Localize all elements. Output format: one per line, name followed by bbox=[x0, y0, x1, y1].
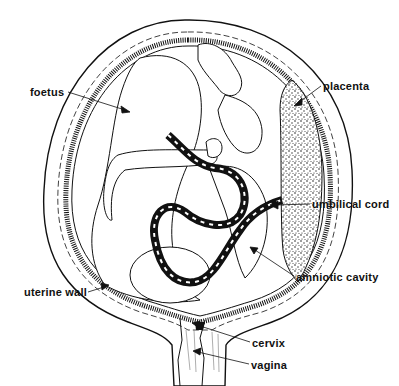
label-uterine-wall: uterine wall bbox=[24, 286, 87, 298]
label-cervix: cervix bbox=[252, 337, 285, 349]
label-foetus: foetus bbox=[30, 86, 64, 98]
label-vagina: vagina bbox=[251, 359, 287, 371]
uterus-illustration bbox=[0, 0, 399, 386]
label-umbilical-cord: umbilical cord bbox=[312, 198, 389, 210]
label-amniotic-cavity: amniotic cavity bbox=[296, 271, 378, 283]
label-placenta: placenta bbox=[323, 80, 369, 92]
foetus-in-uterus-diagram: foetus placenta umbilical cord amniotic … bbox=[0, 0, 399, 386]
